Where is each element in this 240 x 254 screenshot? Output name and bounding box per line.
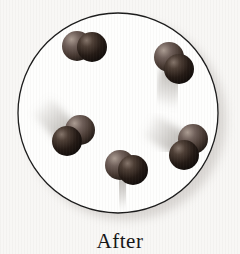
atom-sphere-dark	[52, 126, 82, 156]
motion-trail	[147, 124, 175, 141]
atom-sphere-dark	[164, 54, 194, 84]
motion-trail	[40, 104, 64, 130]
molecule-container-diagram	[0, 0, 240, 254]
atom-sphere-dark	[169, 140, 199, 170]
figure-caption: After	[0, 229, 240, 253]
atom-sphere-dark	[77, 32, 107, 62]
figure: After	[0, 0, 240, 254]
motion-trail	[121, 183, 124, 208]
atom-sphere-dark	[118, 155, 148, 185]
